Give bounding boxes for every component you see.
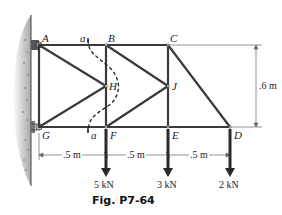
truss-figure: A B C H J G F E D a a .6 m .5 m .5 m .5 … <box>0 0 282 215</box>
figure-caption: Fig. P7-64 <box>92 194 155 207</box>
load-label-f: 5 kN <box>94 180 114 190</box>
load-label-d: 2 kN <box>219 180 239 190</box>
truss-members <box>39 45 230 127</box>
section-label-top: a <box>80 33 86 44</box>
height-dimension-label: .6 m <box>258 81 278 91</box>
joint-label-b: B <box>108 33 115 44</box>
joint-label-e: E <box>172 130 179 141</box>
span-label-ed: .5 m <box>189 150 209 160</box>
joint-label-g: G <box>42 130 50 141</box>
joint-label-c: C <box>170 33 177 44</box>
joint-label-h: H <box>109 81 117 92</box>
span-label-gf: .5 m <box>62 150 82 160</box>
wall-support <box>13 15 31 186</box>
height-dimension <box>168 45 262 127</box>
member-cd <box>168 45 230 127</box>
joint-label-f: F <box>110 130 117 141</box>
section-label-bottom: a <box>91 130 97 141</box>
load-label-e: 3 kN <box>157 180 177 190</box>
joint-label-a: A <box>42 33 49 44</box>
member-gh <box>39 86 106 127</box>
joint-label-d: D <box>234 130 242 141</box>
member-fj <box>106 86 168 127</box>
joint-label-j: J <box>172 81 177 92</box>
span-label-fe: .5 m <box>126 150 146 160</box>
member-ah <box>39 45 106 86</box>
load-arrows <box>101 129 235 177</box>
